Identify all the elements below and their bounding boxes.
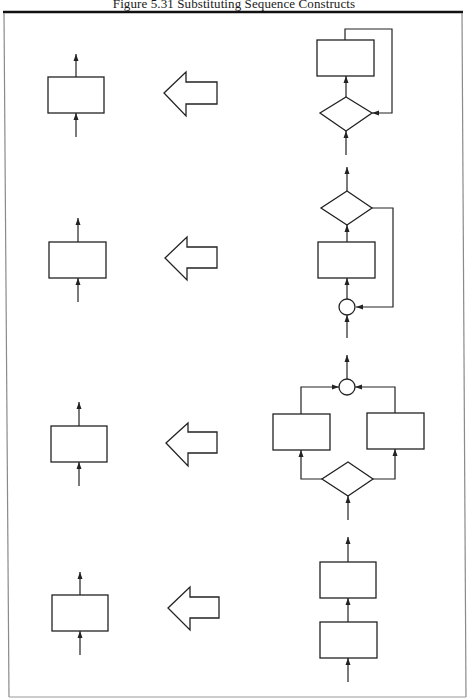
process-block (48, 77, 104, 113)
process-block-second (320, 562, 376, 598)
row-2 (49, 167, 393, 338)
row-1-single-block (48, 54, 104, 137)
loop-body-block (318, 242, 375, 278)
process-block (49, 242, 106, 278)
row-4-sequence-construct (320, 537, 377, 682)
frame-left-edge (4, 13, 9, 697)
row-4 (52, 537, 377, 682)
replacement-arrow-icon (168, 587, 219, 630)
figure-frame (3, 12, 466, 697)
decision-diamond (322, 462, 373, 496)
row-3-single-block (51, 402, 107, 486)
left-branch-line (301, 450, 322, 479)
row-1-while-loop-construct (317, 29, 392, 155)
replacement-arrow-icon (165, 237, 217, 280)
left-merge-line (301, 387, 339, 414)
process-block (52, 595, 108, 631)
replacement-arrow-icon (164, 72, 217, 116)
row-3 (51, 355, 424, 520)
row-2-repeat-until-construct (318, 167, 393, 338)
loop-body-block (317, 40, 374, 76)
process-block (51, 426, 107, 462)
row-4-single-block (52, 572, 108, 655)
replacement-arrow-icon (166, 423, 217, 466)
right-merge-line (355, 387, 395, 413)
then-block (273, 414, 330, 450)
right-branch-line (373, 449, 395, 479)
process-block-first (320, 622, 377, 658)
flowchart-figure (0, 0, 468, 699)
decision-diamond (321, 191, 372, 225)
row-3-if-then-else-construct (273, 355, 424, 520)
junction-circle (339, 299, 355, 315)
decision-diamond (320, 97, 372, 131)
junction-circle (339, 379, 355, 395)
else-block (367, 413, 424, 449)
row-2-single-block (49, 218, 106, 302)
row-1 (48, 29, 392, 155)
frame-right-edge (462, 13, 466, 697)
